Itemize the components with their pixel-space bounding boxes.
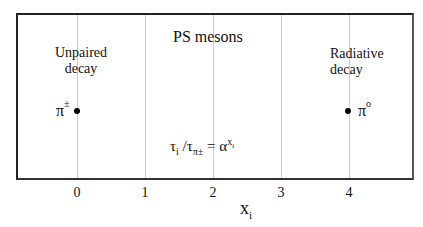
- formula-exp-i: i: [232, 142, 234, 150]
- annotation-radiative-line2: decay: [330, 62, 384, 78]
- x-tick-2: 2: [203, 185, 223, 201]
- x-tick-3: 3: [271, 185, 291, 201]
- gridline-3: [281, 15, 282, 178]
- annotation-unpaired-line2: decay: [53, 61, 109, 77]
- label-pi-neutral: πo: [358, 101, 371, 120]
- x-axis-label: xi: [240, 198, 252, 221]
- annotation-radiative-line1: Radiative: [330, 46, 384, 62]
- x-axis-label-base: x: [240, 198, 249, 218]
- annotation-unpaired-decay: Unpaired decay: [53, 45, 109, 77]
- formula-lifetime-ratio: τi /τπ± = αxi: [170, 136, 234, 157]
- pi-neutral-base: π: [358, 102, 366, 119]
- formula-slash: /: [179, 138, 187, 154]
- pi-neutral-sup: o: [366, 98, 371, 109]
- gridline-4: [349, 15, 350, 178]
- label-pi-charged: π±: [56, 101, 70, 120]
- annotation-radiative-decay: Radiative decay: [330, 46, 384, 78]
- formula-alpha: α: [219, 138, 227, 154]
- x-axis-label-sub: i: [249, 209, 252, 221]
- x-tick-0: 0: [67, 185, 87, 201]
- annotation-unpaired-line1: Unpaired: [53, 45, 109, 61]
- gridline-1: [145, 15, 146, 178]
- point-pi-charged: [74, 108, 80, 114]
- pi-charged-sup: ±: [64, 98, 70, 109]
- pi-charged-base: π: [56, 102, 64, 119]
- gridline-0: [77, 15, 78, 178]
- x-tick-4: 4: [339, 185, 359, 201]
- point-pi-neutral: [345, 108, 351, 114]
- formula-equals: =: [203, 138, 219, 154]
- x-tick-1: 1: [135, 185, 155, 201]
- chart-title: PS mesons: [173, 28, 243, 46]
